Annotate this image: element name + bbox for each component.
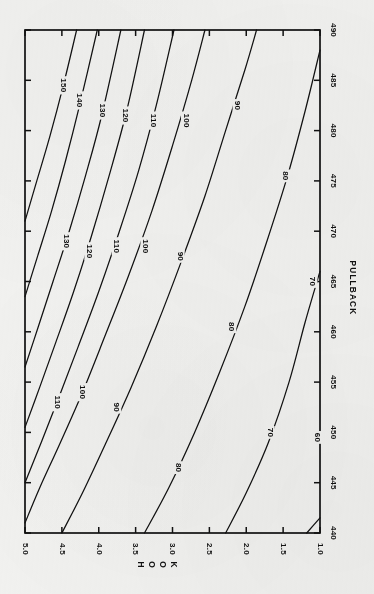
contour-label-text: 90	[176, 252, 185, 262]
y-axis-title-letter-2: O	[158, 561, 168, 569]
contour-label-text: 70	[266, 428, 275, 438]
contour-label-80: 80	[281, 169, 291, 182]
y-axis-tick-label-2.5: 2.5	[205, 543, 214, 555]
contour-line-150	[25, 30, 77, 221]
contour-label-text: 110	[149, 114, 158, 128]
contour-label-text: 120	[85, 244, 94, 258]
contour-line-120	[25, 30, 144, 427]
contour-label-text: 110	[112, 239, 121, 253]
y-axis-title-letter-3: K	[169, 561, 179, 568]
y-axis-tick-label-1.5: 1.5	[279, 543, 288, 555]
contour-label-110: 110	[112, 237, 122, 255]
y-axis-tick-label-4.0: 4.0	[95, 543, 104, 555]
contour-label-text: 130	[98, 103, 107, 117]
contour-line-60	[307, 518, 320, 533]
x-axis-tick-label-460: 460	[329, 325, 338, 339]
contour-label-group: 1501401301301201201101101101001001009090…	[52, 76, 322, 474]
contour-plot-page: 4404454504554604654704754804854901.01.52…	[0, 0, 374, 594]
x-axis-tick-label-470: 470	[329, 224, 338, 238]
contour-label-110: 110	[149, 111, 159, 129]
x-axis-tick-label-450: 450	[329, 425, 338, 439]
x-axis-tick-label-440: 440	[329, 526, 338, 540]
y-axis-title: HOOK	[136, 561, 179, 569]
contour-label-text: 90	[233, 101, 242, 111]
contour-line-100	[25, 30, 205, 523]
contour-label-100: 100	[78, 383, 88, 401]
x-axis-tick-label-445: 445	[329, 476, 338, 490]
contour-line-130	[25, 30, 121, 367]
contour-label-60: 60	[312, 431, 322, 444]
plot-frame	[25, 30, 320, 533]
contour-label-text: 90	[112, 403, 121, 413]
x-axis-tick-label-485: 485	[329, 73, 338, 87]
contour-label-140: 140	[75, 91, 85, 109]
contour-label-text: 100	[141, 239, 150, 253]
contour-line-110	[25, 30, 174, 483]
contour-label-text: 80	[174, 463, 183, 473]
x-axis-tick-label-455: 455	[329, 375, 338, 389]
contour-label-text: 70	[308, 277, 317, 287]
contour-label-text: 100	[182, 113, 191, 127]
x-axis-tick-label-465: 465	[329, 274, 338, 288]
contour-label-100: 100	[140, 237, 150, 255]
contour-label-90: 90	[233, 99, 243, 112]
contour-line-90	[62, 30, 257, 533]
contour-line-group	[25, 30, 320, 533]
contour-line-70	[226, 271, 320, 533]
x-axis-tick-label-490: 490	[329, 23, 338, 37]
contour-label-130: 130	[62, 232, 72, 250]
y-axis-title-letter-1: O	[147, 561, 157, 569]
contour-label-150: 150	[59, 76, 69, 94]
contour-label-120: 120	[121, 106, 131, 124]
x-axis-tick-label-480: 480	[329, 124, 338, 138]
contour-label-90: 90	[112, 401, 122, 414]
plot-border	[25, 30, 320, 533]
contour-label-80: 80	[173, 461, 183, 474]
contour-label-100: 100	[181, 111, 191, 129]
axis-tick-label-group: 4404454504554604654704754804854901.01.52…	[21, 23, 338, 555]
contour-label-80: 80	[227, 320, 237, 333]
x-axis-title-text: PULLBACK	[348, 261, 358, 316]
contour-label-text: 80	[281, 171, 290, 181]
contour-line-80	[144, 50, 320, 533]
y-axis-tick-label-4.5: 4.5	[58, 543, 67, 555]
contour-label-110: 110	[52, 393, 62, 411]
contour-plot-figure: 4404454504554604654704754804854901.01.52…	[0, 0, 374, 594]
y-axis-tick-label-1.0: 1.0	[316, 543, 325, 555]
contour-label-90: 90	[175, 250, 185, 263]
y-axis-tick-label-2.0: 2.0	[242, 543, 251, 555]
x-axis-title: PULLBACK	[348, 261, 358, 316]
contour-label-text: 140	[75, 93, 84, 107]
contour-label-text: 120	[121, 108, 130, 122]
contour-label-120: 120	[84, 242, 94, 260]
contour-label-70: 70	[308, 275, 318, 288]
y-axis-tick-label-5.0: 5.0	[21, 543, 30, 555]
contour-label-text: 100	[78, 385, 87, 399]
axis-tick-group	[25, 30, 320, 533]
contour-label-text: 80	[227, 322, 236, 332]
contour-label-text: 150	[59, 78, 68, 92]
contour-label-text: 110	[53, 395, 62, 409]
y-axis-tick-label-3.5: 3.5	[131, 543, 140, 555]
y-axis-title-letter-0: H	[136, 561, 146, 568]
contour-label-70: 70	[265, 426, 275, 439]
contour-label-130: 130	[97, 101, 107, 119]
contour-label-text: 130	[62, 234, 71, 248]
x-axis-tick-label-475: 475	[329, 174, 338, 188]
contour-label-text: 60	[313, 433, 322, 443]
y-axis-tick-label-3.0: 3.0	[168, 543, 177, 555]
